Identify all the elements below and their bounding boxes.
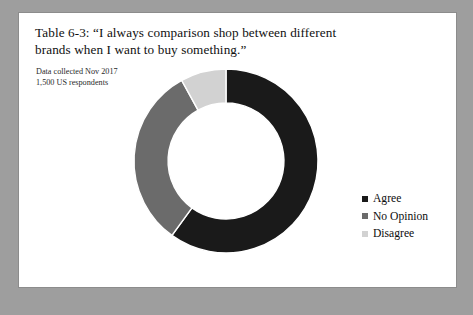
chart-legend: Agree No Opinion Disagree [362, 190, 457, 243]
legend-item-agree[interactable]: Agree [362, 190, 457, 208]
donut-chart: Agree No Opinion Disagree [19, 13, 457, 288]
donut-slice-no-opinion[interactable] [134, 80, 198, 235]
legend-swatch-no-opinion [362, 213, 368, 219]
donut-chart-svg [126, 61, 326, 261]
legend-swatch-agree [362, 196, 368, 202]
legend-item-disagree[interactable]: Disagree [362, 225, 457, 243]
legend-item-no-opinion[interactable]: No Opinion [362, 208, 457, 226]
legend-swatch-disagree [362, 231, 368, 237]
legend-label-disagree: Disagree [373, 227, 414, 240]
legend-label-agree: Agree [373, 192, 401, 205]
legend-label-no-opinion: No Opinion [373, 210, 428, 223]
page-sheet: Table 6-3: “I always comparison shop bet… [18, 12, 457, 288]
